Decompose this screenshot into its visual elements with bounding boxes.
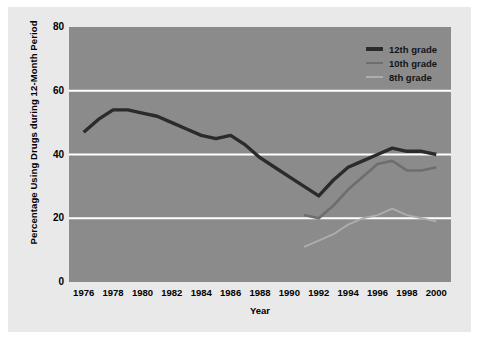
y-axis-tick-labels: 020406080 — [20, 27, 64, 282]
chart-legend: 12th grade10th grade8th grade — [366, 43, 437, 83]
legend-item-12th-grade: 12th grade — [366, 43, 437, 55]
series-line-12th-grade — [84, 110, 437, 196]
chart-figure: Percentage Using Drugs during 12-Month P… — [0, 0, 479, 345]
legend-item-8th-grade: 8th grade — [366, 71, 437, 83]
y-tick-label-40: 40 — [20, 150, 64, 160]
legend-swatch-line-icon — [366, 47, 383, 50]
legend-label: 12th grade — [389, 44, 437, 55]
x-axis-title: Year — [69, 305, 451, 316]
y-tick-label-80: 80 — [20, 22, 64, 32]
legend-label: 8th grade — [389, 72, 432, 83]
y-tick-label-20: 20 — [20, 213, 64, 223]
x-axis-tick-labels: 1976197819801982198419861988199019921994… — [69, 287, 451, 301]
legend-label: 10th grade — [389, 58, 437, 69]
x-tick-label-2000: 2000 — [416, 287, 456, 299]
legend-swatch-line-icon — [366, 62, 383, 65]
plot-area: 12th grade10th grade8th grade — [69, 27, 451, 282]
series-lines — [84, 110, 437, 247]
y-tick-label-60: 60 — [20, 86, 64, 96]
legend-item-10th-grade: 10th grade — [366, 57, 437, 69]
legend-swatch-line-icon — [366, 76, 383, 78]
y-tick-label-0: 0 — [20, 277, 64, 287]
